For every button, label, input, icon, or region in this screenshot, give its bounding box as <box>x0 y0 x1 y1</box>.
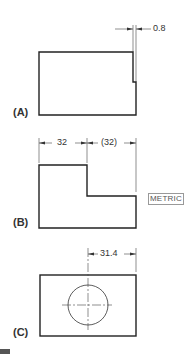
figure-a <box>39 25 151 115</box>
drawing-canvas <box>0 0 196 354</box>
metric-note: METRIC <box>148 193 184 205</box>
figure-label-b: (B) <box>13 216 28 228</box>
dimension-b-left: 32 <box>57 137 67 147</box>
figure-label-c: (C) <box>13 326 28 338</box>
figure-b <box>39 138 136 228</box>
figure-label-a: (A) <box>13 106 28 118</box>
corner-mark <box>0 349 10 354</box>
figure-c <box>40 248 136 336</box>
dimension-c: 31.4 <box>100 248 118 258</box>
dimension-a: 0.8 <box>153 23 166 33</box>
dimension-b-right: (32) <box>101 137 117 147</box>
